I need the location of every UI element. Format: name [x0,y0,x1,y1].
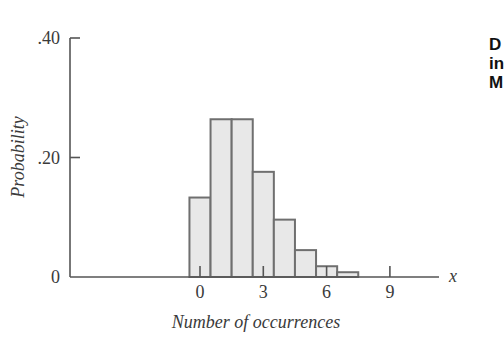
side-text-line: D [489,35,504,54]
histogram-bars [189,119,358,277]
x-axis-symbol: x [448,266,457,286]
side-text-line: in [489,54,504,73]
x-tick-label: 9 [385,282,394,302]
histogram-bar [295,250,316,277]
histogram-bar [189,198,210,277]
cropped-side-text: D in M [489,35,504,92]
y-tick-label: .40 [38,28,61,48]
y-tick-label: .20 [38,148,61,168]
histogram-bar [211,119,232,277]
y-axis-title: Probability [8,116,28,198]
y-axis-ticks: 0.20.40 [38,28,81,287]
side-text-line: M [489,73,504,92]
x-tick-label: 6 [322,282,331,302]
histogram-bar [253,172,274,277]
x-tick-label: 3 [259,282,268,302]
x-axis-title: Number of occurrences [171,312,340,332]
histogram-bar [274,220,295,277]
y-tick-label: 0 [51,267,60,287]
histogram-bar [232,119,253,277]
x-tick-label: 0 [196,282,205,302]
